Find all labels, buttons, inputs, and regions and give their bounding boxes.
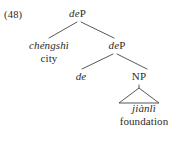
tree-node-np: NP: [114, 71, 164, 83]
tree-node-np-label: NP: [132, 70, 146, 82]
tree-node-terminal: jiànlì foundation: [102, 103, 186, 127]
tree-node-root-dep: deP: [0, 8, 187, 20]
branch-root-to-intermediate: [81, 22, 114, 38]
tree-node-terminal-word: jiànlì: [132, 102, 156, 114]
tree-node-root-dep-roman: P: [80, 7, 86, 19]
tree-node-specifier-word: chéngshì: [29, 39, 69, 51]
tree-node-terminal-gloss: foundation: [102, 116, 186, 128]
tree-node-specifier-gloss: city: [10, 53, 88, 65]
syntax-tree-figure: (48) deP chéngshì city deP de: [0, 0, 187, 143]
branch-intermediate-to-np: [117, 54, 147, 69]
tree-node-specifier: chéngshì city: [10, 40, 88, 64]
triangle-icon: [119, 88, 159, 103]
tree-node-head-de: de: [56, 71, 106, 83]
tree-node-head-de-label: de: [76, 70, 87, 82]
tree-node-root-dep-italic: de: [69, 7, 80, 19]
branch-root-to-specifier: [49, 22, 77, 38]
tree-node-intermediate-dep: deP: [86, 40, 148, 52]
tree-node-intermediate-dep-italic: de: [109, 39, 120, 51]
tree-node-intermediate-dep-roman: P: [119, 39, 125, 51]
